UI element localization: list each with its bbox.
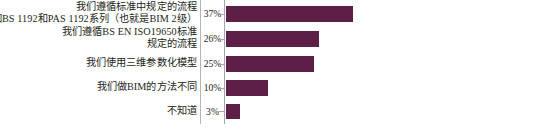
category-label-0-line-1: 我们遵循标准中规定的流程 [76, 1, 197, 12]
horizontal-bar-chart: 我们遵循标准中规定的流程 如BS 1192和PAS 1192系列（也就是BIM … [0, 0, 534, 137]
value-axis-line [224, 0, 225, 124]
category-label-1-line-2: 规定的流程 [62, 38, 197, 50]
axis-tick-1 [219, 39, 225, 40]
category-label-3: 我们做BIM的方法不同 [97, 81, 197, 93]
category-label-4-line-1: 不知道 [167, 105, 197, 116]
category-label-3-line-1: 我们做BIM的方法不同 [97, 81, 197, 92]
axis-tick-2 [219, 64, 225, 65]
category-label-2-line-1: 我们使用三维参数化模型 [86, 57, 197, 68]
axis-tick-3 [219, 88, 225, 89]
value-label-column: 37% 26% 25% 10% 3% [201, 0, 224, 124]
bar-2 [226, 56, 314, 72]
category-label-1: 我们遵循BS EN ISO19650标准 规定的流程 [62, 26, 197, 49]
category-label-column: 我们遵循标准中规定的流程 如BS 1192和PAS 1192系列（也就是BIM … [0, 0, 199, 124]
bar-0 [226, 6, 353, 22]
category-label-0-line-2: 如BS 1192和PAS 1192系列（也就是BIM 2级） [0, 13, 197, 25]
bottom-caption [0, 130, 534, 137]
category-label-2: 我们使用三维参数化模型 [86, 57, 197, 69]
bar-3 [226, 80, 268, 96]
category-label-0: 我们遵循标准中规定的流程 如BS 1192和PAS 1192系列（也就是BIM … [0, 1, 197, 24]
bar-1 [226, 31, 319, 47]
axis-tick-4 [219, 111, 225, 112]
value-label-4: 3% [201, 107, 224, 117]
bar-4 [226, 104, 240, 119]
axis-tick-0 [219, 14, 225, 15]
category-label-1-line-1: 我们遵循BS EN ISO19650标准 [62, 26, 197, 37]
category-label-4: 不知道 [167, 105, 197, 117]
